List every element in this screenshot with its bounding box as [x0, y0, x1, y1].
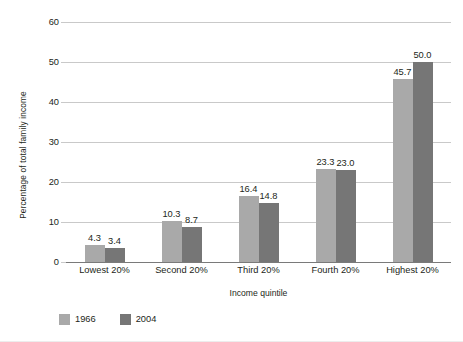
- bar[interactable]: 50.0: [413, 62, 433, 262]
- bar[interactable]: 8.7: [182, 227, 202, 262]
- bar[interactable]: 14.8: [259, 203, 279, 262]
- bar-pair: 23.323.0: [316, 22, 356, 262]
- bar[interactable]: 23.3: [316, 169, 336, 262]
- x-axis-tick-label: Lowest 20%: [66, 265, 143, 275]
- bar[interactable]: 23.0: [336, 170, 356, 262]
- y-axis-tick-label: 0: [54, 257, 59, 267]
- bar[interactable]: 16.4: [239, 196, 259, 262]
- bar-value-label: 10.3: [162, 209, 180, 219]
- bar-pair: 16.414.8: [239, 22, 279, 262]
- bar-group: 16.414.8: [220, 22, 297, 262]
- y-axis-tick-label: 30: [49, 137, 59, 147]
- y-axis-tick-label: 40: [49, 97, 59, 107]
- x-axis-tick-labels: Lowest 20%Second 20%Third 20%Fourth 20%H…: [66, 265, 451, 279]
- bar[interactable]: 10.3: [162, 221, 182, 262]
- legend-swatch-icon: [120, 314, 131, 325]
- x-axis-tick-label: Fourth 20%: [297, 265, 374, 275]
- bar[interactable]: 4.3: [85, 245, 105, 262]
- y-axis-tick-label: 20: [49, 177, 59, 187]
- legend-label: 2004: [136, 315, 157, 324]
- bar-group: 45.750.0: [374, 22, 451, 262]
- bar-group: 4.33.4: [66, 22, 143, 262]
- bar-value-label: 14.8: [259, 191, 277, 201]
- x-axis-tick-label: Third 20%: [220, 265, 297, 275]
- y-axis-title: Percentage of total family income: [18, 91, 28, 219]
- bar-value-label: 23.0: [336, 158, 354, 168]
- bar-group: 10.38.7: [143, 22, 220, 262]
- y-axis-tick-label: 50: [49, 57, 59, 67]
- y-axis-tick-label: 60: [49, 17, 59, 27]
- bar[interactable]: 3.4: [105, 248, 125, 262]
- bar-pair: 10.38.7: [162, 22, 202, 262]
- x-axis-tick-label: Highest 20%: [374, 265, 451, 275]
- bar-value-label: 45.7: [393, 67, 411, 77]
- bar-value-label: 8.7: [185, 215, 198, 225]
- legend-swatch-icon: [59, 314, 70, 325]
- x-axis-tick-label: Second 20%: [143, 265, 220, 275]
- y-axis-title-wrapper: Percentage of total family income: [14, 62, 32, 248]
- bar[interactable]: 45.7: [393, 79, 413, 262]
- bar-chart-figure: Percentage of total family income 010203…: [0, 0, 463, 342]
- plot-area: 0102030405060 4.33.410.38.716.414.823.32…: [66, 22, 451, 262]
- y-axis-tick-label: 10: [49, 217, 59, 227]
- bar-value-label: 16.4: [239, 184, 257, 194]
- legend-item[interactable]: 1966: [59, 314, 96, 325]
- bar-value-label: 23.3: [316, 157, 334, 167]
- bar-groups: 4.33.410.38.716.414.823.323.045.750.0: [66, 22, 451, 262]
- bar-pair: 45.750.0: [393, 22, 433, 262]
- bar-value-label: 50.0: [413, 50, 431, 60]
- bar-value-label: 3.4: [108, 236, 121, 246]
- bar-pair: 4.33.4: [85, 22, 125, 262]
- y-axis-tick-mark: [61, 262, 66, 263]
- chart-legend: 19662004: [59, 314, 156, 325]
- bar-group: 23.323.0: [297, 22, 374, 262]
- legend-item[interactable]: 2004: [120, 314, 157, 325]
- legend-label: 1966: [75, 315, 96, 324]
- x-axis-baseline: [66, 262, 451, 263]
- x-axis-title: Income quintile: [66, 288, 451, 298]
- bar-value-label: 4.3: [88, 233, 101, 243]
